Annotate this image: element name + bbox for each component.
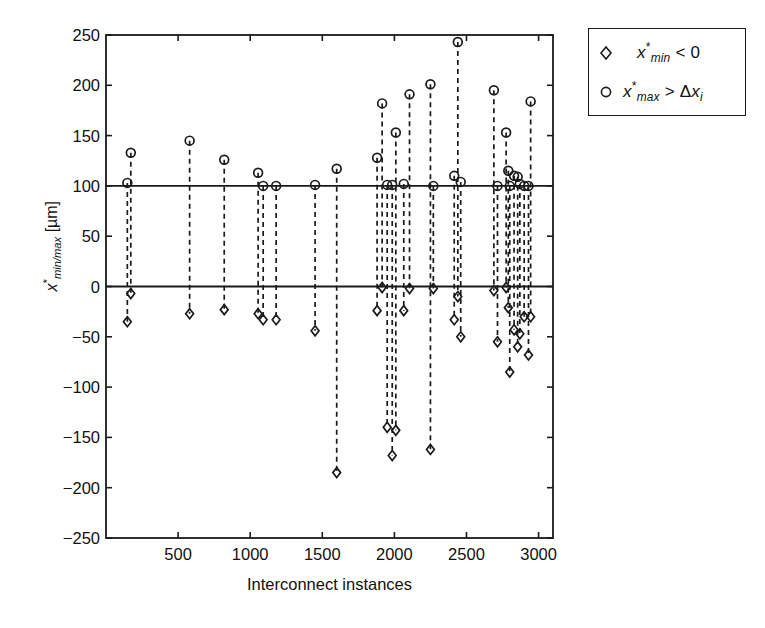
- legend-label-min: x*min < 0: [623, 40, 700, 65]
- x-tick-label: 1000: [210, 545, 290, 564]
- legend-label-min-relation: < 0: [675, 43, 700, 62]
- diamond-marker-icon: [589, 45, 623, 61]
- legend-entry-min: x*min < 0: [589, 36, 745, 70]
- x-tick-label: 1500: [282, 545, 362, 564]
- legend-label-max: x*max > Δxi: [623, 79, 703, 104]
- circle-marker-icon: [589, 84, 623, 100]
- reference-lines: [106, 186, 553, 287]
- x-tick-label: 2000: [354, 545, 434, 564]
- data-markers: [123, 38, 535, 478]
- x-tick-label: 2500: [426, 545, 506, 564]
- legend-label-max-relation: > Δxi: [665, 82, 703, 101]
- legend: x*min < 0 x*max > Δxi: [588, 28, 746, 116]
- stem-lines: [127, 42, 530, 473]
- x-tick-label: 500: [138, 545, 218, 564]
- figure-root: 250200150100500−50−100−150−200−250 x*min…: [0, 0, 765, 628]
- legend-entry-max: x*max > Δxi: [589, 75, 745, 109]
- x-tick-label: 3000: [499, 545, 579, 564]
